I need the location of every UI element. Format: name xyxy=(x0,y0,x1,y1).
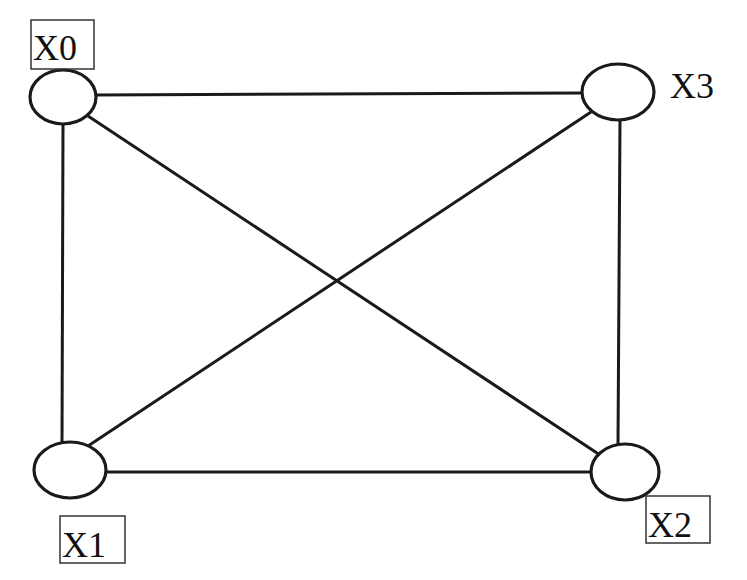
node-x2 xyxy=(591,444,659,500)
edge-x3-x1 xyxy=(88,112,591,446)
graph-diagram: X0 X3 X1 X2 xyxy=(0,0,747,580)
node-x3 xyxy=(582,64,654,120)
edge-x3-x2 xyxy=(618,120,620,444)
node-label-x0: X0 xyxy=(33,28,77,68)
edge-x0-x2 xyxy=(88,116,600,455)
node-x1 xyxy=(34,442,106,498)
node-label-x3: X3 xyxy=(670,66,714,106)
edge-x0-x3 xyxy=(95,93,584,95)
node-label-x1: X1 xyxy=(62,525,106,565)
node-x0 xyxy=(30,70,96,124)
edge-x0-x1 xyxy=(62,124,63,446)
node-label-x2: X2 xyxy=(648,505,692,545)
